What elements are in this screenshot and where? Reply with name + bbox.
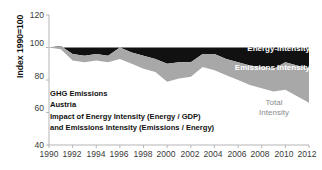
x-tick-label-2000: 2000 [153, 150, 179, 159]
chart-container: Index 1990=100 120 100 80 60 40 1990 199… [0, 0, 322, 170]
series-label-energy-intensity: Energy-Intensity [247, 45, 310, 53]
chart-plot-area [0, 0, 322, 170]
total-intensity-line-1: Total [248, 98, 300, 108]
x-tick-label-2012: 2012 [294, 150, 320, 159]
x-tick-label-1992: 1992 [59, 150, 85, 159]
annotation-line-3: Impact of Energy Intensity (Energy / GDP… [50, 111, 214, 122]
x-tick-label-1996: 1996 [106, 150, 132, 159]
total-intensity-line-2: Intensity [248, 108, 300, 118]
x-tick-label-2008: 2008 [247, 150, 273, 159]
series-label-total-intensity: Total Intensity [248, 98, 300, 118]
y-tick-label-100: 100 [22, 39, 44, 48]
annotation-line-4: and Emissions Intensity (Emissions / Ene… [50, 122, 214, 133]
annotation-line-2: Austria [50, 99, 214, 110]
y-tick-label-120: 120 [22, 11, 44, 20]
chart-annotation-text: GHG Emissions Austria Impact of Energy I… [50, 88, 214, 134]
series-label-emissions-intensity: Emissions Intensity [235, 64, 310, 72]
x-tick-label-2004: 2004 [200, 150, 226, 159]
annotation-line-1: GHG Emissions [50, 88, 214, 99]
y-tick-label-80: 80 [22, 72, 44, 81]
y-tick-label-60: 60 [22, 104, 44, 113]
